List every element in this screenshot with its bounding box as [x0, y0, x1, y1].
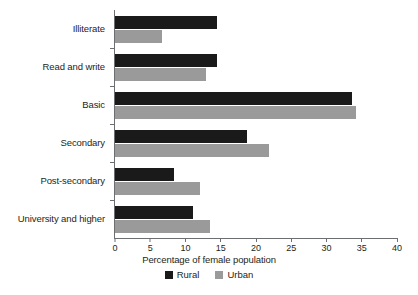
- tick-label: 25: [286, 243, 296, 253]
- category-label: University and higher: [0, 200, 110, 238]
- category-label: Illiterate: [0, 10, 110, 48]
- bar-urban: [115, 220, 210, 233]
- tick-mark: [361, 238, 362, 242]
- tick-label: 30: [321, 243, 331, 253]
- tick-label: 15: [216, 243, 226, 253]
- tick-label: 5: [148, 243, 153, 253]
- legend-item-rural: Rural: [165, 269, 200, 280]
- legend-swatch-urban-icon: [215, 271, 223, 279]
- x-axis-tick: 40: [392, 238, 402, 253]
- bar-urban: [115, 68, 206, 81]
- category-tick: [110, 48, 115, 49]
- bar-group: [115, 48, 397, 86]
- x-axis-tick: 20: [251, 238, 261, 253]
- bar-rural: [115, 54, 217, 67]
- bar-urban: [115, 182, 200, 195]
- category-tick: [110, 124, 115, 125]
- bar-group: [115, 10, 397, 48]
- bar-rural: [115, 130, 247, 143]
- tick-label: 0: [112, 243, 117, 253]
- tick-label: 10: [180, 243, 190, 253]
- tick-mark: [326, 238, 327, 242]
- tick-mark: [396, 238, 397, 242]
- tick-mark: [150, 238, 151, 242]
- x-axis-tick: 5: [148, 238, 153, 253]
- bar-group: [115, 162, 397, 200]
- bar-rural: [115, 168, 174, 181]
- x-axis-tick: 35: [357, 238, 367, 253]
- bar-urban: [115, 30, 162, 43]
- category-tick: [110, 162, 115, 163]
- category-label: Post-secondary: [0, 162, 110, 200]
- bar-group: [115, 86, 397, 124]
- tick-mark: [220, 238, 221, 242]
- category-tick: [110, 200, 115, 201]
- legend-item-urban: Urban: [215, 269, 253, 280]
- bar-urban: [115, 106, 356, 119]
- x-axis-tick: 30: [321, 238, 331, 253]
- category-axis-labels: Illiterate Read and write Basic Secondar…: [0, 10, 110, 238]
- category-label: Read and write: [0, 48, 110, 86]
- x-axis-tick: 15: [216, 238, 226, 253]
- category-tick: [110, 86, 115, 87]
- x-axis-tick: 0: [112, 238, 117, 253]
- legend-label-urban: Urban: [227, 269, 253, 280]
- tick-label: 20: [251, 243, 261, 253]
- legend-label-rural: Rural: [177, 269, 200, 280]
- x-axis-title: Percentage of female population: [0, 254, 418, 265]
- bar-urban: [115, 144, 269, 157]
- bar-rural: [115, 92, 352, 105]
- tick-mark: [255, 238, 256, 242]
- tick-label: 40: [392, 243, 402, 253]
- plot-area: [115, 10, 397, 238]
- tick-mark: [291, 238, 292, 242]
- legend-swatch-rural-icon: [165, 271, 173, 279]
- category-label: Basic: [0, 86, 110, 124]
- x-axis-tick: 10: [180, 238, 190, 253]
- bar-group: [115, 124, 397, 162]
- bar-rows: [115, 10, 397, 238]
- tick-label: 35: [357, 243, 367, 253]
- tick-mark: [185, 238, 186, 242]
- bar-rural: [115, 16, 217, 29]
- tick-mark: [114, 238, 115, 242]
- category-label: Secondary: [0, 124, 110, 162]
- x-axis-tick: 25: [286, 238, 296, 253]
- chart-legend: Rural Urban: [0, 269, 418, 280]
- bar-chart: Illiterate Read and write Basic Secondar…: [0, 0, 418, 295]
- bar-rural: [115, 206, 193, 219]
- bar-group: [115, 200, 397, 238]
